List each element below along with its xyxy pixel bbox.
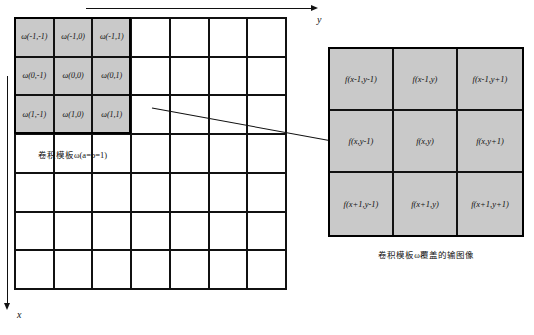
y-axis-line: [86, 8, 314, 9]
mask-cell-label: ω(1,-1): [16, 110, 53, 119]
neighborhood-cell-label: f(x,y-1): [349, 136, 374, 146]
grid-cell: [171, 58, 210, 97]
figure-canvas: y x ω(-1,-1) ω(-1,0) ω(-1,1) ω(0,-1) ω(0…: [0, 0, 534, 335]
grid-cell: [132, 251, 171, 290]
grid-cell: [248, 251, 287, 290]
neighborhood-cell-label: f(x-1,y-1): [345, 74, 377, 84]
grid-cell: [55, 174, 94, 213]
grid-cell: [248, 213, 287, 252]
neighborhood-cell: f(x-1,y): [394, 49, 458, 111]
grid-cell: [210, 213, 249, 252]
grid-cell: [248, 19, 287, 58]
mask-cell: ω(0,-1): [16, 58, 55, 97]
mask-cell: ω(1,1): [93, 96, 132, 135]
grid-cell: [210, 96, 249, 135]
grid-cell: [171, 251, 210, 290]
neighborhood-cell-label: f(x-1,y+1): [473, 74, 508, 84]
mask-cell-label: ω(1,1): [93, 110, 130, 119]
mask-cell-label: ω(0,-1): [16, 72, 53, 81]
mask-cell-label: ω(1,0): [55, 110, 92, 119]
x-axis-label: x: [17, 309, 21, 320]
grid-cell: [16, 174, 55, 213]
grid-cell: [210, 19, 249, 58]
y-axis-arrowhead-icon: [311, 5, 318, 11]
grid-cell: [93, 213, 132, 252]
neighborhood-cell: f(x+1,y+1): [458, 173, 522, 235]
neighborhood-cell-label: f(x+1,y-1): [344, 199, 379, 209]
mask-caption-text: 卷积模板ω(a=b=1): [38, 148, 107, 160]
grid-cell: [93, 174, 132, 213]
neighborhood-caption-text: 卷积模板ω覆盖的输图像: [378, 250, 474, 260]
neighborhood-cell-label: f(x-1,y): [413, 74, 438, 84]
neighborhood-cell: f(x-1,y+1): [458, 49, 522, 111]
mask-cell-label: ω(-1,-1): [16, 33, 53, 42]
y-axis-label: y: [317, 14, 321, 25]
neighborhood-cell: f(x,y-1): [330, 111, 394, 173]
mask-cell: ω(-1,-1): [16, 19, 55, 58]
mask-cell-label: ω(-1,0): [55, 33, 92, 42]
mask-cell: ω(1,0): [55, 96, 94, 135]
neighborhood-cell-label: f(x+1,y): [411, 199, 439, 209]
grid-cell: [132, 174, 171, 213]
grid-cell: [171, 174, 210, 213]
grid-cell: [171, 96, 210, 135]
grid-cell: [210, 251, 249, 290]
covered-image-neighborhood-grid: f(x-1,y-1) f(x-1,y) f(x-1,y+1) f(x,y-1) …: [328, 47, 524, 237]
grid-cell: [210, 174, 249, 213]
mask-cell-label: ω(0,1): [93, 72, 130, 81]
grid-cell: [132, 135, 171, 174]
neighborhood-cell-label: f(x+1,y+1): [471, 199, 509, 209]
grid-cell: [248, 135, 287, 174]
x-axis-arrowhead-icon: [4, 303, 10, 310]
grid-cell: [132, 19, 171, 58]
grid-cell: [171, 19, 210, 58]
neighborhood-cell: f(x,y+1): [458, 111, 522, 173]
mask-cell-label: ω(0,0): [55, 72, 92, 81]
covered-image-caption: 卷积模板ω覆盖的输图像: [328, 248, 524, 260]
grid-cell: [132, 96, 171, 135]
mask-cell-label: ω(-1,1): [93, 33, 130, 42]
grid-cell: [171, 213, 210, 252]
x-axis-line: [7, 76, 8, 306]
grid-cell: [210, 135, 249, 174]
grid-cell: [171, 135, 210, 174]
grid-cell: [55, 251, 94, 290]
grid-cell: [93, 251, 132, 290]
mask-cell: ω(0,0): [55, 58, 94, 97]
mask-cell: ω(-1,1): [93, 19, 132, 58]
neighborhood-cell: f(x,y): [394, 111, 458, 173]
neighborhood-cell-label: f(x,y+1): [476, 136, 504, 146]
grid-cell: [248, 96, 287, 135]
neighborhood-cell-label: f(x,y): [416, 136, 434, 146]
convolution-mask-caption: 卷积模板ω(a=b=1): [14, 134, 131, 173]
grid-cell: [55, 213, 94, 252]
mask-cell: ω(1,-1): [16, 96, 55, 135]
mask-cell: ω(-1,0): [55, 19, 94, 58]
grid-cell: [16, 251, 55, 290]
grid-cell: [132, 58, 171, 97]
neighborhood-cell: f(x+1,y-1): [330, 173, 394, 235]
grid-cell: [248, 58, 287, 97]
neighborhood-cell: f(x-1,y-1): [330, 49, 394, 111]
grid-cell: [132, 213, 171, 252]
grid-cell: [210, 58, 249, 97]
neighborhood-cell: f(x+1,y): [394, 173, 458, 235]
grid-cell: [248, 174, 287, 213]
grid-cell: [16, 213, 55, 252]
mask-cell: ω(0,1): [93, 58, 132, 97]
